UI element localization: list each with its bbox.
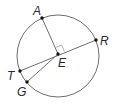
point-G — [25, 80, 28, 83]
segment-EG — [27, 54, 58, 82]
label-T: T — [7, 69, 16, 83]
label-G: G — [17, 85, 26, 99]
point-R — [94, 38, 97, 41]
label-A: A — [32, 4, 41, 18]
circle-diagram: A R E T G — [0, 0, 113, 104]
label-R: R — [100, 34, 109, 48]
segment-AE — [42, 18, 58, 54]
label-E: E — [58, 56, 67, 70]
point-T — [18, 69, 21, 72]
